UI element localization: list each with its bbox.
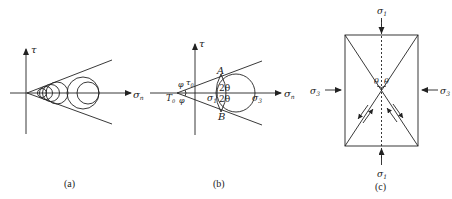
diagram-canvas: τ σn (a) τ σn A B 2θ 2θ σ1 σ3 τ0 T0 φ φ …	[0, 0, 452, 199]
sigma-n-label-b: σn	[284, 88, 295, 100]
caption-b: (b)	[213, 178, 225, 190]
sigma1-bottom-label-c: σ1	[377, 169, 387, 180]
theta-right-label-c: θ	[384, 77, 389, 86]
panel-c	[325, 18, 438, 165]
envelope-upper-a	[27, 60, 112, 93]
caption-a: (a)	[64, 178, 75, 190]
sigma3-label-b: σ3	[252, 93, 262, 104]
shear-arrow-right-1	[387, 108, 397, 122]
angle-2theta-bottom: 2θ	[219, 94, 230, 104]
point-A-label: A	[216, 65, 224, 76]
sigma1-label-b: σ1	[207, 93, 217, 104]
sigma3-right-label-c: σ3	[440, 86, 450, 97]
envelope-lower-a	[27, 93, 112, 124]
theta-left-label-c: θ	[374, 77, 379, 86]
caption-c: (c)	[375, 181, 386, 193]
tau-label-b: τ	[199, 38, 205, 49]
point-B-label: B	[217, 111, 225, 122]
sigma1-top-label-c: σ1	[377, 6, 387, 17]
sigma3-left-label-c: σ3	[310, 86, 320, 97]
panel-b	[150, 44, 281, 135]
T0-label-b: T0	[166, 93, 176, 104]
sigma-n-label-a: σn	[133, 89, 144, 101]
shear-arrow-left-1	[358, 105, 368, 119]
panel-a	[10, 49, 131, 134]
phi-bottom-label-b: φ	[179, 96, 185, 105]
tau0-label-b: τ0	[186, 78, 194, 88]
phi-top-label-b: φ	[178, 80, 184, 89]
angle-2theta-top: 2θ	[219, 83, 230, 93]
tau-label-a: τ	[31, 44, 37, 55]
